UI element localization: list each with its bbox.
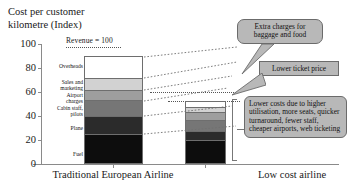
bar-segment-airport-charges	[84, 90, 143, 101]
bracket-stem-lower-costs	[237, 129, 244, 130]
category-label-traditional: Traditional European Airline	[40, 169, 186, 180]
x-tick-mark-traditional	[113, 164, 114, 168]
revenue-dotted-line-left	[66, 47, 121, 48]
bar-segment-plane	[84, 116, 143, 134]
y-axis-line	[41, 44, 42, 164]
bar-traditional-european-airline	[84, 56, 143, 164]
revenue-annotation-label: Revenue = 100	[66, 36, 113, 45]
leader-line-airport	[144, 76, 232, 90]
leader-line-cabin	[144, 88, 228, 101]
segment-label-overheads: Overheads	[38, 63, 83, 69]
segment-label-cabin-staff: Cabin staff, pilots	[34, 105, 83, 117]
y-tick-label-60: 60	[10, 87, 36, 97]
revenue-dotted-line-right	[150, 92, 238, 93]
bar-segment-cabin-staff-pilots	[84, 100, 143, 116]
chart-canvas: Cost per customer kilometre (Index) 100 …	[0, 0, 352, 186]
bar-low-cost-airline	[185, 101, 226, 164]
y-tick-label-40: 40	[10, 111, 36, 121]
leader-line-overheads	[144, 47, 237, 57]
bar-segment-cabin-staff-pilots-lowcost	[185, 120, 226, 132]
callout-tail-ticket	[232, 73, 266, 97]
segment-label-fuel: Fuel	[38, 151, 83, 157]
x-tick-mark-lowcost	[205, 164, 206, 168]
page-title: Cost per customer kilometre (Index)	[8, 6, 148, 31]
y-tick-label-20: 20	[10, 135, 36, 145]
bar-segment-airport-charges-lowcost	[185, 112, 226, 120]
callout-lower-ticket-price[interactable]: Lower ticket price	[259, 61, 339, 76]
y-tick-mark-100	[38, 44, 42, 45]
leader-line-sales	[144, 62, 237, 78]
callout-extra-charges[interactable]: Extra charges for baggage and food	[237, 19, 323, 44]
bar-segment-overheads	[84, 56, 143, 78]
segment-label-airport-charges: Airport charges	[38, 92, 83, 104]
y-tick-label-100: 100	[10, 39, 36, 49]
bar-segment-plane-lowcost	[185, 131, 226, 140]
y-tick-label-0: 0	[10, 159, 36, 169]
bar-segment-sales-and-marketing	[84, 78, 143, 90]
y-tick-label-80: 80	[10, 63, 36, 73]
category-label-lowcost: Low cost airline	[238, 169, 346, 180]
segment-label-sales-marketing: Sales and marketing	[38, 79, 83, 91]
segment-label-plane: Plane	[38, 125, 83, 131]
y-tick-mark-20	[38, 140, 42, 141]
callout-lower-costs[interactable]: Lower costs due to higher utilisation, m…	[244, 96, 347, 138]
bar-segment-fuel	[84, 134, 143, 164]
bar-segment-fuel-lowcost	[185, 140, 226, 164]
